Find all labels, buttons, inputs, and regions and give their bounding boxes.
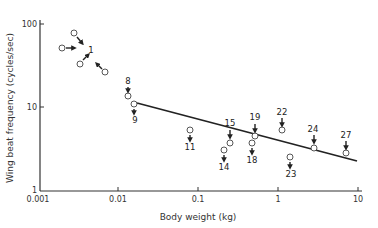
data-point xyxy=(252,133,258,139)
point-label: 23 xyxy=(286,169,297,179)
point-label: 8 xyxy=(125,76,130,86)
y-tick-label: 100 xyxy=(22,20,37,29)
point-label: 1 xyxy=(88,45,93,55)
point-label: 9 xyxy=(132,115,137,125)
data-point xyxy=(77,61,83,67)
data-points xyxy=(59,30,349,160)
point-label: 11 xyxy=(185,142,196,152)
data-point xyxy=(279,127,285,133)
point-label: 22 xyxy=(277,107,288,117)
data-point xyxy=(187,127,193,133)
point-label: 14 xyxy=(219,162,230,172)
point-labels: 1 8 9 11 14 15 18 19 22 23 24 27 xyxy=(88,45,351,179)
data-point xyxy=(221,147,227,153)
x-tick-label: 10 xyxy=(353,195,363,204)
data-point xyxy=(59,45,65,51)
data-point xyxy=(102,69,108,75)
point-label: 18 xyxy=(247,155,258,165)
data-point xyxy=(227,140,233,146)
fit-line xyxy=(137,103,357,161)
x-tick-label: 0.001 xyxy=(27,195,50,204)
x-tick-label: 0.1 xyxy=(192,195,205,204)
data-point xyxy=(343,150,349,156)
x-tick-label: 0.01 xyxy=(109,195,127,204)
x-ticks: 0.001 0.01 0.1 1 10 xyxy=(27,187,364,204)
data-point xyxy=(249,140,255,146)
y-ticks: 100 10 1 xyxy=(22,20,44,195)
data-point xyxy=(125,93,131,99)
point-label: 19 xyxy=(250,112,261,122)
y-axis-title: Wing beat frequency (cycles/sec) xyxy=(5,33,15,183)
y-tick-label: 1 xyxy=(32,186,37,195)
point-label: 15 xyxy=(225,118,236,128)
y-tick-label: 10 xyxy=(27,103,37,112)
x-tick-label: 1 xyxy=(275,195,280,204)
data-point xyxy=(71,30,77,36)
x-axis-title: Body weight (kg) xyxy=(160,212,237,222)
point-label: 27 xyxy=(341,130,352,140)
data-point xyxy=(311,145,317,151)
point-label: 24 xyxy=(308,124,319,134)
data-point xyxy=(287,154,293,160)
data-point xyxy=(131,101,137,107)
wing-beat-chart: 100 10 1 0.001 0.01 0.1 1 10 Body weight… xyxy=(0,0,378,228)
